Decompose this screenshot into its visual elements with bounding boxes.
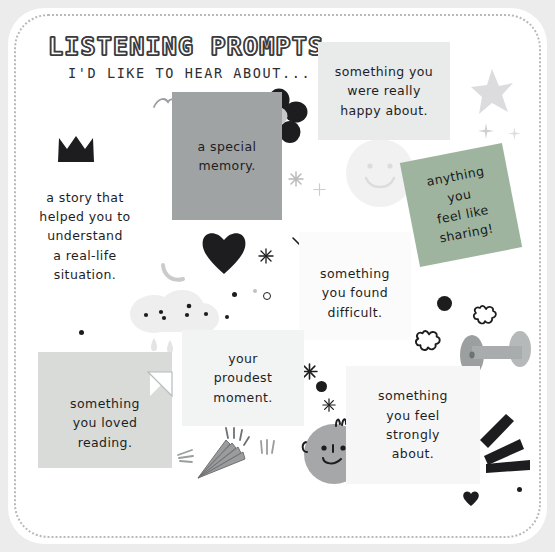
dot-icon — [232, 292, 237, 297]
sparkle-icon — [508, 127, 521, 140]
page-subtitle: I'D LIKE TO HEAR ABOUT... — [68, 65, 311, 81]
dot-icon — [79, 330, 84, 335]
prompt-note-strongly[interactable]: something you feel strongly about. — [346, 366, 480, 484]
outline-flower-icon — [414, 330, 442, 356]
sparkle-icon — [478, 123, 494, 139]
burst-lines-icon — [478, 412, 536, 474]
dot-icon — [225, 315, 229, 319]
prompt-note-proudest[interactable]: your proudest moment. — [182, 330, 304, 426]
prompt-note-story[interactable]: a story that helped you to understand a … — [18, 190, 152, 282]
dot-icon — [517, 487, 522, 492]
prompt-note-anything[interactable]: anything you feel like sharing! — [400, 143, 522, 267]
crown-icon — [57, 135, 95, 163]
sparkle-icon — [258, 248, 274, 264]
prompt-note-reading[interactable]: something you loved reading. — [38, 352, 172, 468]
sparkle-icon — [313, 183, 326, 196]
worksheet-page: LISTENING PROMPTS I'D LIKE TO HEAR ABOUT… — [0, 0, 555, 552]
dot-icon — [253, 289, 257, 293]
prompt-note-special[interactable]: a special memory. — [172, 92, 282, 220]
note-fold-outline — [148, 372, 174, 398]
dot-icon — [316, 381, 327, 392]
banana-icon — [160, 262, 186, 284]
party-popper-icon — [258, 433, 280, 457]
dot-icon — [263, 292, 271, 300]
page-title: LISTENING PROMPTS — [48, 32, 324, 61]
note-fold-corner — [299, 232, 321, 254]
heart-icon — [200, 228, 248, 276]
dot-icon — [437, 296, 452, 311]
sparkle-icon — [322, 398, 336, 412]
outline-flower-icon — [472, 305, 498, 329]
small-heart-icon — [462, 490, 480, 507]
party-popper-icon — [174, 446, 196, 468]
party-popper-icon — [192, 428, 254, 484]
star-icon — [470, 68, 514, 116]
sparkle-icon — [288, 171, 304, 187]
prompt-note-happy[interactable]: something you were really happy about. — [318, 42, 450, 140]
